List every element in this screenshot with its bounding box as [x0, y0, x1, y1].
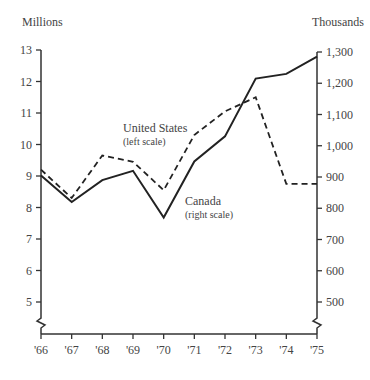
x-tick-label: '70	[157, 343, 171, 357]
canada-annotation-sub: (right scale)	[185, 209, 233, 221]
left-axis: 5678910111213	[20, 43, 45, 334]
left-tick-label: 5	[26, 295, 32, 309]
right-axis: 5006007008009001,0001,1001,2001,300	[313, 45, 353, 334]
x-tick-label: '74	[279, 343, 293, 357]
us-series-line	[41, 97, 317, 198]
x-tick-label: '67	[65, 343, 79, 357]
x-tick-label: '71	[187, 343, 201, 357]
right-tick-label: 800	[326, 201, 344, 215]
right-axis-label: Thousands	[312, 15, 364, 29]
x-axis: '66'67'68'69'70'71'72'73'74'75	[34, 334, 324, 357]
left-tick-label: 12	[20, 75, 32, 89]
right-tick-label: 600	[326, 264, 344, 278]
left-tick-label: 8	[26, 201, 32, 215]
us-annotation-sub: (left scale)	[123, 136, 165, 148]
canada-annotation: Canada	[185, 194, 222, 208]
x-tick-label: '73	[249, 343, 263, 357]
x-tick-label: '66	[34, 343, 48, 357]
line-chart: Millions Thousands 5678910111213 5006007…	[0, 0, 370, 380]
canada-series-line	[41, 57, 317, 218]
left-tick-label: 13	[20, 43, 32, 57]
right-tick-label: 900	[326, 170, 344, 184]
right-tick-label: 700	[326, 233, 344, 247]
right-tick-label: 1,300	[326, 45, 353, 59]
left-tick-label: 11	[20, 106, 32, 120]
x-tick-label: '72	[218, 343, 232, 357]
x-tick-label: '75	[310, 343, 324, 357]
us-annotation: United States	[123, 121, 188, 135]
left-tick-label: 10	[20, 138, 32, 152]
right-tick-label: 500	[326, 295, 344, 309]
left-tick-label: 6	[26, 264, 32, 278]
right-tick-label: 1,000	[326, 139, 353, 153]
left-tick-label: 7	[26, 232, 32, 246]
right-tick-label: 1,200	[326, 76, 353, 90]
left-tick-label: 9	[26, 169, 32, 183]
x-tick-label: '68	[95, 343, 109, 357]
right-tick-label: 1,100	[326, 108, 353, 122]
left-axis-label: Millions	[22, 15, 63, 29]
x-tick-label: '69	[126, 343, 140, 357]
